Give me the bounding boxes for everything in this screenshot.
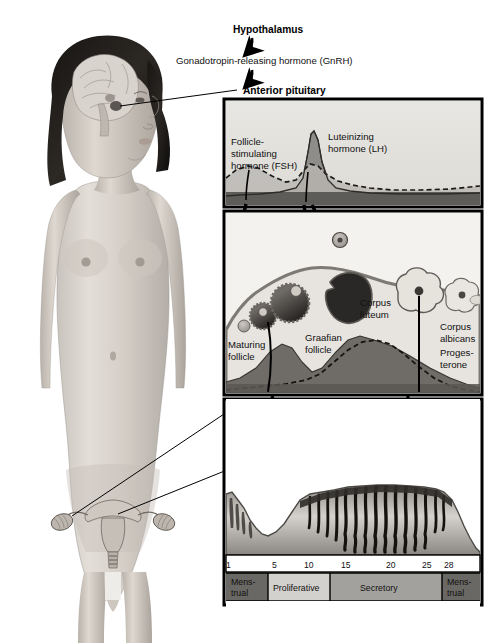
svg-text:albicans: albicans [440,333,475,344]
svg-text:follicle: follicle [305,344,332,355]
lh-label-line2: hormone (LH) [328,143,387,154]
fsh-label-line3: hormone (FSH) [231,160,297,171]
phase-label-menstrual-start-2: trual [231,588,248,598]
ovarian-panel: Maturing follicle Graafian follicle Corp… [224,211,484,395]
phase-label-menstrual-end-1: Mens- [447,577,472,587]
hypothalamus-label: Hypothalamus [233,24,304,35]
svg-text:luteum: luteum [360,309,389,320]
fsh-label-line2: stimulating [231,148,277,159]
hypothalamus-region [105,94,115,102]
axis-tick-5: 5 [272,560,277,570]
hormone-panel: Follicle- stimulating hormone (FSH) Lute… [224,99,482,207]
phase-bar: Mens- trual Proliferative Secretory Mens… [226,573,480,601]
axis-tick-10: 10 [304,560,314,570]
phase-label-secretory: Secretory [360,583,398,593]
axis-tick-25: 25 [422,560,432,570]
svg-text:Corpus: Corpus [440,321,471,332]
axis-tick-15: 15 [341,560,351,570]
phase-label-menstrual-end-2: trual [447,588,464,598]
uterus [101,518,125,552]
fsh-label-line1: Follicle- [231,136,264,147]
phase-label-proliferative: Proliferative [273,583,320,593]
svg-text:Maturing: Maturing [228,339,265,350]
anterior-pituitary-label: Anterior pituitary [243,85,326,96]
axis-tick-20: 20 [386,560,396,570]
axis-tick-28: 28 [444,560,454,570]
day-axis: 1 5 10 15 20 25 28 [226,555,480,572]
lh-label-line1: Luteinizing [328,131,374,142]
phase-label-menstrual-start-1: Mens- [231,577,256,587]
primordial-follicle [238,320,250,332]
svg-text:Corpus: Corpus [360,297,391,308]
corpus-luteum-label: Corpus luteum [360,297,391,320]
gnrh-label: Gonadotropin-releasing hormone (GnRH) [176,55,353,66]
endometrial-panel: 1 5 10 15 20 25 28 Mens- trual Prolifera… [224,399,482,614]
svg-text:follicle: follicle [228,351,255,362]
corpus-albicans-label: Corpus albicans [440,321,475,344]
svg-text:Proges-: Proges- [440,347,474,358]
axis-tick-1: 1 [226,560,231,570]
svg-text:Graafian: Graafian [305,332,342,343]
svg-text:terone: terone [440,359,467,370]
menstrual-cycle-figure: Hypothalamus Gonadotropin-releasing horm… [0,0,501,643]
maturing-follicle-2 [271,284,309,322]
figure-svg: Hypothalamus Gonadotropin-releasing horm… [0,0,501,643]
